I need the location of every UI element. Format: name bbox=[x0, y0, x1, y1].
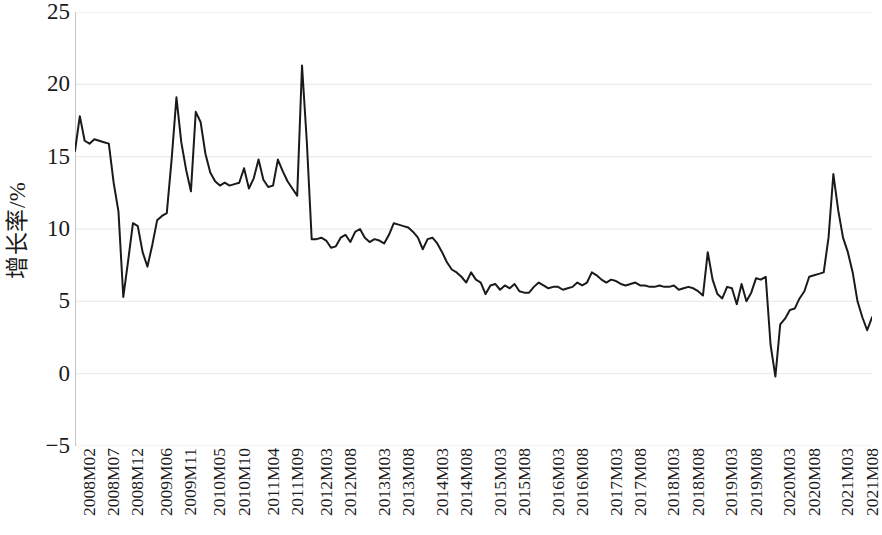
chart-canvas bbox=[75, 12, 872, 446]
y-axis-tick-label: −5 bbox=[26, 434, 70, 457]
x-axis-tick-label: 2017M08 bbox=[632, 448, 650, 516]
x-axis-tick-label: 2015M03 bbox=[492, 448, 510, 516]
x-axis-tick-label: 2009M11 bbox=[182, 448, 200, 515]
y-axis-tick-label: 0 bbox=[26, 362, 70, 385]
x-axis-tick-label: 2008M02 bbox=[81, 448, 99, 516]
x-axis-tick-label: 2014M03 bbox=[434, 448, 452, 516]
y-axis-tick-label: 10 bbox=[26, 217, 70, 240]
y-axis-tick-label: 15 bbox=[26, 145, 70, 168]
x-axis-tick-label: 2018M03 bbox=[665, 448, 683, 516]
x-axis-tick-label: 2011M09 bbox=[289, 448, 307, 515]
x-axis-tick-label: 2015M08 bbox=[516, 448, 534, 516]
data-series-line bbox=[75, 66, 872, 377]
x-axis-tick-label: 2008M07 bbox=[105, 448, 123, 516]
x-axis-tick-label: 2012M03 bbox=[318, 448, 336, 516]
x-axis-tick-label: 2010M05 bbox=[211, 448, 229, 516]
x-axis-tick-label: 2009M06 bbox=[158, 448, 176, 516]
x-axis-tick-label: 2016M08 bbox=[574, 448, 592, 516]
x-axis-tick-label: 2014M08 bbox=[458, 448, 476, 516]
y-axis-tick-label: 20 bbox=[26, 72, 70, 95]
axis-spines bbox=[75, 12, 76, 446]
x-axis-tick-label: 2013M03 bbox=[376, 448, 394, 516]
x-axis-tick-label: 2011M04 bbox=[265, 448, 283, 515]
gridlines bbox=[75, 12, 872, 446]
x-axis-tick-labels: 2008M022008M072008M122009M062009M112010M… bbox=[75, 448, 872, 535]
x-axis-tick-label: 2019M08 bbox=[748, 448, 766, 516]
y-axis-tick-labels: 2520151050−5 bbox=[22, 0, 70, 460]
plot-area bbox=[75, 12, 872, 446]
x-axis-tick-label: 2021M03 bbox=[839, 448, 857, 516]
y-axis-tick-label: 5 bbox=[26, 289, 70, 312]
x-axis-tick-label: 2012M08 bbox=[342, 448, 360, 516]
x-axis-tick-label: 2008M12 bbox=[129, 448, 147, 516]
x-axis-tick-label: 2017M03 bbox=[608, 448, 626, 516]
x-axis-tick-label: 2020M03 bbox=[781, 448, 799, 516]
x-axis-tick-label: 2018M08 bbox=[690, 448, 708, 516]
x-axis-tick-label: 2021M08 bbox=[864, 448, 882, 516]
x-axis-tick-label: 2016M03 bbox=[550, 448, 568, 516]
x-axis-tick-label: 2013M08 bbox=[400, 448, 418, 516]
y-axis-tick-label: 25 bbox=[26, 0, 70, 23]
x-axis-tick-label: 2020M08 bbox=[806, 448, 824, 516]
x-axis-tick-label: 2010M10 bbox=[236, 448, 254, 516]
x-axis-tick-label: 2019M03 bbox=[723, 448, 741, 516]
